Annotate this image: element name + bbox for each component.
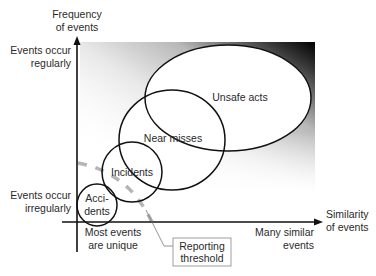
y-high-label-line2: regularly [31, 57, 72, 69]
y-low-label-line1: Events occur [10, 189, 71, 201]
y-low-label-line2: irregularly [25, 202, 72, 214]
x-axis-title-line1: Similarity [326, 208, 369, 220]
incidents-label: Incidents [111, 166, 153, 178]
x-axis-title-line2: of events [326, 221, 369, 233]
y-axis-arrow-icon [74, 36, 81, 45]
x-low-label-line2: are unique [88, 239, 138, 251]
accidents-label-line2: dents [84, 205, 110, 217]
reporting-threshold-callout: Reporting threshold [146, 210, 231, 266]
y-axis-title-line2: of events [56, 21, 99, 33]
threshold-label-line1: Reporting [179, 240, 225, 252]
x-high-label-line2: events [283, 239, 314, 251]
near-misses-label: Near misses [144, 132, 202, 144]
unsafe-acts-label: Unsafe acts [212, 91, 267, 103]
x-high-label-line1: Many similar [255, 226, 314, 238]
x-axis-arrow-icon [314, 219, 323, 226]
safety-pyramid-diagram: Unsafe acts Near misses Incidents Acci- … [0, 0, 376, 276]
x-low-label-line1: Most events [85, 226, 142, 238]
y-axis-title-line1: Frequency [52, 8, 102, 20]
accidents-label-line1: Acci- [85, 192, 109, 204]
threshold-label-line2: threshold [180, 252, 223, 264]
y-high-label-line1: Events occur [10, 44, 71, 56]
y-axis [74, 36, 81, 252]
